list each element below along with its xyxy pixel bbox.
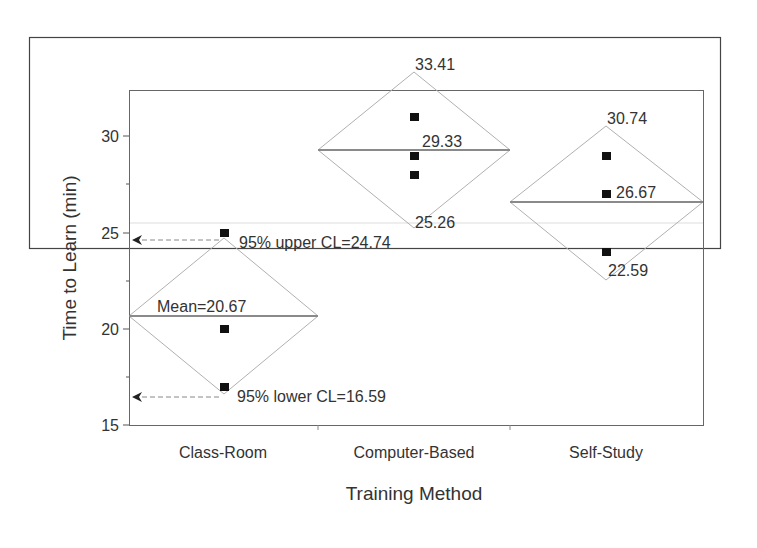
x-tick-self-study: Self-Study	[569, 444, 643, 461]
upper-cl-label: 95% upper CL=24.74	[239, 234, 391, 251]
mean-label: Mean=20.67	[157, 298, 247, 315]
y-tick-20: 20	[101, 321, 119, 338]
diamond-class-room	[129, 238, 318, 394]
x-axis-title: Training Method	[346, 483, 483, 504]
x-tick-computer-based: Computer-Based	[354, 444, 475, 461]
diamond-self-study	[510, 126, 703, 280]
cb-lower-label: 25.26	[415, 214, 455, 231]
outer-border	[30, 38, 721, 249]
y-axis	[123, 136, 129, 425]
chart-root: 30 25 20 15 Class-Room Computer-Based Se…	[0, 0, 757, 548]
y-tick-25: 25	[101, 225, 119, 242]
lower-cl-label: 95% lower CL=16.59	[237, 388, 386, 405]
y-axis-title: Time to Learn (min)	[59, 175, 80, 340]
ss-lower-label: 22.59	[608, 262, 648, 279]
ss-mean-label: 26.67	[616, 184, 656, 201]
plot-area	[130, 91, 704, 426]
y-tick-30: 30	[101, 128, 119, 145]
ss-upper-label: 30.74	[607, 110, 647, 127]
lower-cl-arrow	[132, 392, 222, 402]
x-tick-class-room: Class-Room	[179, 444, 267, 461]
y-tick-15: 15	[101, 417, 119, 434]
diamond-computer-based	[318, 72, 510, 228]
cb-upper-label: 33.41	[415, 56, 455, 73]
cb-mean-label: 29.33	[422, 133, 462, 150]
upper-cl-arrow	[132, 235, 222, 245]
